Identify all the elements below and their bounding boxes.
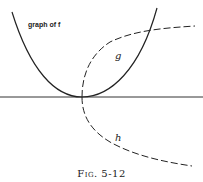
graph-of-h <box>82 97 192 166</box>
label-g: g <box>115 50 121 61</box>
figure-caption: Fig. 5-12 <box>0 168 203 179</box>
graph-of-g <box>82 26 195 97</box>
label-graph-of-f: graph of f <box>28 21 60 28</box>
label-h: h <box>115 132 121 143</box>
